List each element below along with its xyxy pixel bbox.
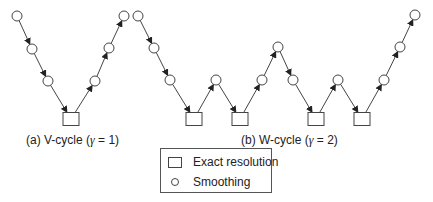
w-cycle-smoothing-node-icon [288, 75, 298, 85]
w-cycle-smoothing-node-icon [273, 42, 283, 52]
w-cycle-smoothing-node-icon [149, 43, 159, 53]
v-cycle-caption-text: (a) V-cycle ( [26, 133, 90, 147]
v-cycle-caption: (a) V-cycle (γ = 1) [26, 133, 119, 148]
w-cycle-edge-arrow [296, 84, 313, 112]
exact-resolution-square-icon [168, 157, 182, 168]
w-cycle-smoothing-node-icon [165, 75, 175, 85]
w-cycle-exact-resolution-node-icon [308, 113, 324, 126]
w-cycle-edge-arrow [280, 52, 291, 76]
w-cycle-caption: (b) W-cycle (γ = 2) [241, 133, 338, 148]
v-cycle-graph [12, 11, 129, 126]
w-cycle-exact-resolution-node-icon [186, 113, 202, 126]
w-cycle-smoothing-node-icon [379, 75, 389, 85]
v-cycle-edge-arrow [111, 21, 122, 44]
v-cycle-smoothing-node-icon [43, 76, 53, 86]
w-cycle-exact-resolution-node-icon [354, 113, 370, 126]
v-cycle-smoothing-node-icon [90, 76, 100, 86]
w-cycle-edge-arrow [140, 20, 152, 43]
v-cycle-smoothing-node-icon [119, 11, 129, 21]
v-cycle-smoothing-node-icon [27, 44, 37, 54]
w-cycle-edge-arrow [219, 84, 236, 112]
w-cycle-edge-arrow [198, 84, 214, 112]
w-cycle-edge-arrow [156, 52, 168, 75]
legend: Exact resolution Smoothing [160, 148, 272, 193]
v-cycle-edge-arrow [51, 85, 67, 112]
w-cycle-smoothing-node-icon [395, 42, 405, 52]
w-cycle-caption-text: (b) W-cycle ( [241, 133, 309, 147]
w-cycle-gamma-value: = 2) [314, 133, 338, 147]
w-cycle-smoothing-node-icon [410, 10, 420, 20]
w-cycle-smoothing-node-icon [257, 75, 267, 85]
w-cycle-edge-arrow [341, 84, 358, 112]
w-cycle-edge-arrow [366, 84, 382, 112]
w-cycle-edge-arrow [244, 84, 260, 112]
w-cycle-smoothing-node-icon [133, 11, 143, 21]
v-cycle-exact-resolution-node-icon [63, 113, 79, 126]
smoothing-circle-icon [171, 178, 179, 186]
legend-smoothing-label: Smoothing [193, 175, 250, 189]
w-cycle-smoothing-node-icon [333, 75, 343, 85]
v-cycle-edge-arrow [97, 53, 107, 77]
w-cycle-exact-resolution-node-icon [232, 113, 248, 126]
v-cycle-edge-arrow [75, 85, 92, 112]
legend-exact-label: Exact resolution [193, 155, 278, 169]
w-cycle-smoothing-node-icon [211, 75, 221, 85]
w-cycle-edge-arrow [264, 51, 276, 75]
w-cycle-edge-arrow [320, 84, 336, 112]
v-cycle-edge-arrow [19, 21, 30, 45]
w-cycle-edge-arrow [386, 51, 398, 75]
v-cycle-smoothing-node-icon [104, 43, 114, 53]
v-cycle-edge-arrow [34, 53, 46, 76]
w-cycle-edge-arrow [173, 84, 190, 112]
v-cycle-gamma-value: = 1) [95, 133, 119, 147]
w-cycle-edge-arrow [402, 20, 413, 43]
w-cycle-graph [133, 10, 420, 126]
v-cycle-smoothing-node-icon [12, 11, 22, 21]
